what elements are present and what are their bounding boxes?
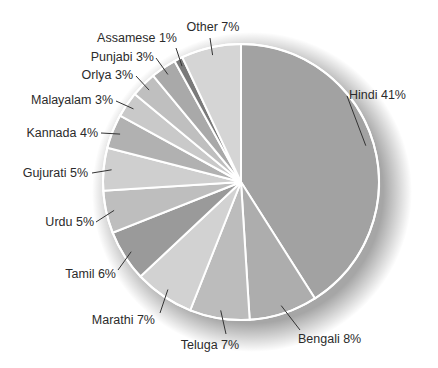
slice-label-hindi: Hindi 41% <box>349 88 406 102</box>
slice-label-assamese: Assamese 1% <box>97 31 177 45</box>
slice-label-other: Other 7% <box>187 20 240 34</box>
slice-label-kannada: Kannada 4% <box>26 126 98 140</box>
slice-label-malayalam: Malayalam 3% <box>31 93 113 107</box>
slice-label-teluga: Teluga 7% <box>181 338 239 352</box>
pie-chart: Hindi 41%Bengali 8%Teluga 7%Marathi 7%Ta… <box>0 0 438 368</box>
slice-label-bengali: Bengali 8% <box>298 332 361 346</box>
slice-label-marathi: Marathi 7% <box>92 313 155 327</box>
slice-label-orlya: Orlya 3% <box>82 68 133 82</box>
slice-label-urdu: Urdu 5% <box>45 215 94 229</box>
slice-label-tamil: Tamil 6% <box>65 267 116 281</box>
slice-label-gujurati: Gujurati 5% <box>23 166 88 180</box>
slice-label-punjabi: Punjabi 3% <box>91 50 154 64</box>
